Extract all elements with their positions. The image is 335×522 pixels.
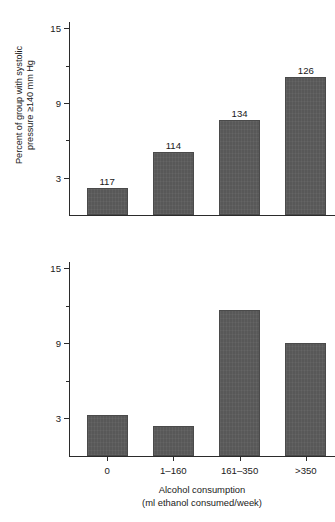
bar [219, 310, 260, 456]
x-axis: 01–160161–350>350 Alcohol consumption (m… [69, 457, 335, 521]
y-axis-title-systolic: Percent of group with systolic pressure … [14, 12, 37, 198]
bar-chart-figure: Percent of group with systolic pressure … [0, 0, 335, 522]
y-tick-mark [64, 178, 69, 179]
y-tick-mark [66, 306, 70, 307]
x-tick-mark-1 [173, 457, 174, 461]
panel-systolic: Percent of group with systolic pressure … [0, 0, 335, 240]
bar: 134 [219, 120, 260, 215]
y-tick-label: 9 [56, 338, 61, 349]
y-tick-label: 3 [56, 413, 61, 424]
bar: 114 [153, 152, 194, 216]
y-tick-mark [64, 268, 69, 269]
bar: 117 [87, 188, 128, 215]
y-tick-label: 9 [56, 97, 61, 108]
y-tick-mark [66, 140, 70, 141]
y-tick-label: 15 [50, 23, 61, 34]
x-axis-title-line2: (ml ethanol consumed/week) [69, 497, 335, 510]
x-tick-label-3: >350 [295, 465, 317, 476]
x-tick-label-1: 1–160 [160, 465, 187, 476]
y-tick-mark [64, 28, 69, 29]
y-axis-title-diastolic-line1: Percent of group with diastolic [14, 499, 25, 522]
x-tick-label-0: 0 [104, 465, 109, 476]
y-tick-label: 15 [50, 263, 61, 274]
plot-area-systolic: 1593 117114134126 [69, 22, 335, 215]
y-axis-title-diastolic-line2: pressure ≥90 mm Hg [25, 499, 36, 522]
y-axis-title-diastolic: Percent of group with diastolic pressure… [14, 499, 37, 522]
y-tick-mark [64, 418, 69, 419]
bar: 126 [285, 77, 326, 215]
x-tick-mark-3 [306, 457, 307, 461]
x-tick-mark-2 [240, 457, 241, 461]
y-axis-title-systolic-line1: Percent of group with systolic [14, 12, 25, 198]
y-tick-mark [64, 343, 69, 344]
bar-value-label: 114 [166, 140, 181, 151]
bar [153, 426, 194, 456]
y-tick-mark [66, 66, 70, 67]
bar [87, 415, 128, 456]
bar [285, 343, 326, 456]
y-axis-title-systolic-line2: pressure ≥140 mm Hg [25, 12, 36, 198]
y-tick-mark [66, 381, 70, 382]
x-axis-title: Alcohol consumption (ml ethanol consumed… [69, 484, 335, 509]
y-tick-label: 3 [56, 172, 61, 183]
bar-series-systolic: 117114134126 [70, 22, 335, 215]
bar-value-label: 117 [99, 176, 114, 187]
bar-value-label: 126 [298, 65, 314, 76]
x-axis-title-line1: Alcohol consumption [69, 484, 335, 497]
x-tick-mark-0 [107, 457, 108, 461]
plot-area-diastolic: 1593 [69, 262, 335, 456]
x-tick-label-2: 161–350 [221, 465, 258, 476]
bar-value-label: 134 [232, 108, 248, 119]
x-axis-line-systolic [69, 215, 335, 216]
y-tick-mark [64, 103, 69, 104]
bar-series-diastolic [70, 262, 335, 456]
